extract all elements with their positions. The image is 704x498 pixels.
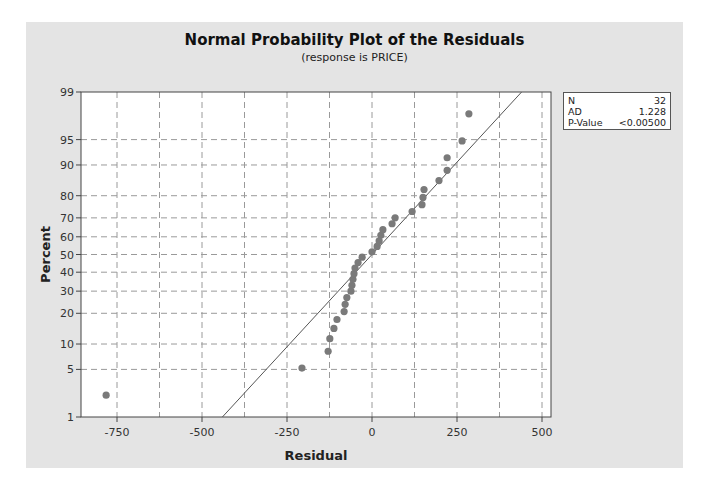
x-tick-label: 500 bbox=[532, 426, 553, 439]
y-tick-label: 50 bbox=[60, 249, 74, 262]
data-point bbox=[459, 137, 466, 144]
y-tick-label: 95 bbox=[60, 134, 74, 147]
stats-label: N bbox=[568, 95, 575, 106]
y-tick-label: 30 bbox=[60, 285, 74, 298]
data-point bbox=[343, 294, 350, 301]
data-point bbox=[325, 348, 332, 355]
stats-value: 32 bbox=[654, 95, 666, 106]
y-tick-label: 90 bbox=[60, 159, 74, 172]
stats-label: P-Value bbox=[568, 117, 602, 128]
data-point bbox=[342, 301, 349, 308]
stats-row-pvalue: P-Value <0.00500 bbox=[568, 117, 666, 128]
stats-value: <0.00500 bbox=[619, 117, 666, 128]
y-tick-label: 80 bbox=[60, 190, 74, 203]
data-point bbox=[409, 208, 416, 215]
y-tick-label: 1 bbox=[67, 411, 74, 424]
y-tick-label: 99 bbox=[60, 86, 74, 99]
x-tick-label: 250 bbox=[447, 426, 468, 439]
y-tick-label: 60 bbox=[60, 231, 74, 244]
stats-row-ad: AD 1.228 bbox=[568, 106, 666, 117]
stats-label: AD bbox=[568, 106, 582, 117]
data-point bbox=[435, 177, 442, 184]
data-point bbox=[418, 201, 425, 208]
data-point bbox=[379, 226, 386, 233]
x-axis-title: Residual bbox=[285, 448, 348, 463]
data-point bbox=[298, 364, 305, 371]
x-tick-label: -500 bbox=[190, 426, 215, 439]
stats-value: 1.228 bbox=[639, 106, 666, 117]
y-tick-label: 10 bbox=[60, 338, 74, 351]
data-point bbox=[444, 167, 451, 174]
y-tick-label: 40 bbox=[60, 266, 74, 279]
data-point bbox=[368, 248, 375, 255]
data-point bbox=[444, 154, 451, 161]
data-point bbox=[419, 194, 426, 201]
data-point bbox=[333, 316, 340, 323]
data-point bbox=[392, 214, 399, 221]
data-point bbox=[465, 110, 472, 117]
data-point bbox=[326, 335, 333, 342]
y-tick-label: 5 bbox=[67, 363, 74, 376]
data-point bbox=[330, 325, 337, 332]
stats-row-n: N 32 bbox=[568, 95, 666, 106]
y-tick-label: 20 bbox=[60, 307, 74, 320]
x-tick-label: -750 bbox=[105, 426, 130, 439]
x-tick-label: 0 bbox=[369, 426, 376, 439]
plot-area: 151020304050607080909599-750-500-2500250… bbox=[0, 0, 704, 498]
x-tick-label: -250 bbox=[275, 426, 300, 439]
data-point bbox=[420, 186, 427, 193]
data-point bbox=[341, 308, 348, 315]
stats-box: N 32 AD 1.228 P-Value <0.00500 bbox=[563, 92, 671, 130]
data-point bbox=[359, 254, 366, 261]
y-tick-label: 70 bbox=[60, 212, 74, 225]
data-point bbox=[103, 392, 110, 399]
y-axis-title: Percent bbox=[38, 226, 53, 283]
